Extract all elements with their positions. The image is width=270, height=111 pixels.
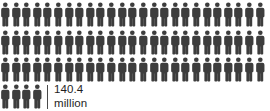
pictogram-chart: 140.4 million xyxy=(0,0,270,111)
person-icon xyxy=(159,30,170,56)
person-icon xyxy=(149,57,160,83)
person-icon xyxy=(21,2,32,28)
person-icon xyxy=(74,2,85,28)
person-icon xyxy=(170,2,181,28)
person-icon xyxy=(21,30,32,56)
tick-mark-icon xyxy=(47,85,48,109)
value-unit: million xyxy=(54,97,87,111)
person-icon xyxy=(202,30,213,56)
person-icon xyxy=(21,84,32,110)
person-icon xyxy=(223,30,234,56)
person-icon xyxy=(159,57,170,83)
person-icon xyxy=(233,57,244,83)
person-icon xyxy=(53,30,64,56)
person-icon xyxy=(244,30,255,56)
person-icon xyxy=(32,2,43,28)
person-icon xyxy=(138,57,149,83)
person-icon xyxy=(127,57,138,83)
person-icon xyxy=(149,30,160,56)
person-icon xyxy=(117,2,128,28)
person-icon xyxy=(138,30,149,56)
person-icon xyxy=(180,30,191,56)
person-icon xyxy=(170,30,181,56)
person-icon xyxy=(32,57,43,83)
person-icon xyxy=(85,57,96,83)
person-icon xyxy=(64,57,75,83)
person-icon xyxy=(117,57,128,83)
person-icon xyxy=(191,57,202,83)
person-icon xyxy=(95,2,106,28)
person-icon xyxy=(255,57,266,83)
person-icon xyxy=(74,57,85,83)
person-icon xyxy=(223,57,234,83)
person-icon xyxy=(202,57,213,83)
pictogram-row xyxy=(0,30,265,56)
person-icon xyxy=(117,30,128,56)
person-icon xyxy=(159,2,170,28)
person-icon xyxy=(32,30,43,56)
person-icon xyxy=(53,2,64,28)
person-icon xyxy=(32,84,43,110)
person-icon xyxy=(53,57,64,83)
person-icon xyxy=(42,2,53,28)
person-icon xyxy=(106,2,117,28)
person-icon xyxy=(11,30,22,56)
person-icon xyxy=(0,84,11,110)
person-icon xyxy=(255,2,266,28)
person-icon xyxy=(85,2,96,28)
person-icon xyxy=(170,57,181,83)
person-icon xyxy=(85,30,96,56)
pictogram-row xyxy=(0,57,265,83)
person-icon xyxy=(127,2,138,28)
person-icon xyxy=(106,57,117,83)
person-icon xyxy=(212,57,223,83)
person-icon xyxy=(233,2,244,28)
person-icon xyxy=(95,30,106,56)
person-icon xyxy=(0,30,11,56)
person-icon xyxy=(212,30,223,56)
person-icon xyxy=(244,2,255,28)
person-icon xyxy=(21,57,32,83)
person-icon xyxy=(42,30,53,56)
person-icon xyxy=(0,57,11,83)
person-icon xyxy=(64,30,75,56)
person-icon xyxy=(64,2,75,28)
person-icon xyxy=(74,30,85,56)
person-icon xyxy=(255,30,266,56)
person-icon xyxy=(11,57,22,83)
pictogram-row xyxy=(0,2,265,28)
person-icon xyxy=(0,2,11,28)
person-icon xyxy=(127,30,138,56)
person-icon xyxy=(233,30,244,56)
person-icon xyxy=(223,2,234,28)
value-number: 140.4 xyxy=(54,83,87,97)
person-icon xyxy=(95,57,106,83)
person-icon xyxy=(149,2,160,28)
person-icon xyxy=(106,30,117,56)
person-icon xyxy=(138,2,149,28)
person-icon xyxy=(42,57,53,83)
pictogram-icon-grid xyxy=(0,0,270,111)
person-icon xyxy=(11,84,22,110)
person-icon xyxy=(191,30,202,56)
person-icon xyxy=(244,57,255,83)
value-label: 140.4 million xyxy=(54,83,87,110)
person-icon xyxy=(180,57,191,83)
pictogram-row xyxy=(0,84,42,110)
person-icon xyxy=(212,2,223,28)
person-icon xyxy=(11,2,22,28)
person-icon xyxy=(180,2,191,28)
person-icon xyxy=(191,2,202,28)
person-icon xyxy=(202,2,213,28)
